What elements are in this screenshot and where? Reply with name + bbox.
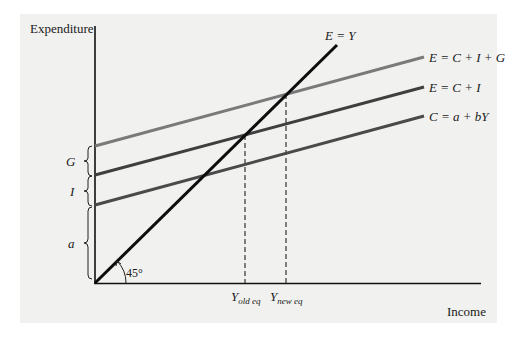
angle-arc-icon: [117, 261, 126, 283]
line-ci-label: E = C + I: [428, 80, 481, 95]
brace-i-label: I: [69, 184, 75, 199]
x-axis-label: Income: [447, 304, 486, 319]
brace-g-label: G: [66, 154, 76, 169]
brace-a-label: a: [68, 236, 75, 251]
brace-a-icon: [84, 207, 92, 279]
y-axis-label: Expenditure: [30, 21, 94, 36]
y-old-eq-label: Yold eq: [231, 289, 261, 306]
line-c-label: C = a + bY: [429, 109, 490, 124]
angle-label: 45°: [126, 266, 143, 280]
line-ey-label: E = Y: [324, 28, 357, 43]
brace-g-icon: [84, 146, 92, 176]
line-cig-label: E = C + I + G: [428, 50, 506, 65]
keynesian-cross-diagram: Expenditure Income E = Y E = C + I + G E…: [0, 0, 519, 338]
y-new-eq-label: Ynew eq: [270, 289, 303, 306]
brace-i-icon: [84, 176, 92, 206]
